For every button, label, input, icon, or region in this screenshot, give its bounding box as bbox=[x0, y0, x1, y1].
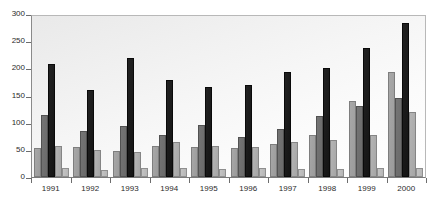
x-axis-tick-mark bbox=[189, 178, 190, 183]
bar bbox=[101, 170, 108, 177]
bar bbox=[402, 23, 409, 177]
y-axis-tick-label: 250 bbox=[12, 36, 25, 45]
y-axis: 050100150200250300 bbox=[0, 15, 31, 178]
bars-layer bbox=[32, 16, 425, 177]
bar bbox=[416, 168, 423, 177]
x-axis-labels: 1991199219931994199519961997199819992000 bbox=[31, 184, 426, 194]
x-axis-tick-mark bbox=[229, 178, 230, 183]
y-axis-tick-label: 200 bbox=[12, 63, 25, 72]
bar bbox=[191, 147, 198, 177]
bar bbox=[152, 146, 159, 177]
bar bbox=[238, 137, 245, 177]
bar bbox=[252, 147, 259, 177]
bar-group bbox=[189, 16, 228, 177]
bar bbox=[270, 144, 277, 177]
x-axis-tick-label: 1993 bbox=[110, 184, 150, 194]
bar bbox=[231, 148, 238, 177]
bar bbox=[94, 150, 101, 177]
x-axis-tick-mark bbox=[71, 178, 72, 183]
y-axis-tick-label: 150 bbox=[12, 91, 25, 100]
bar bbox=[141, 168, 148, 177]
x-axis-tick-mark bbox=[387, 178, 388, 183]
bar bbox=[62, 168, 69, 177]
bar bbox=[356, 106, 363, 177]
bar bbox=[298, 169, 305, 177]
x-axis-tick-mark bbox=[268, 178, 269, 183]
bar bbox=[120, 126, 127, 177]
bar bbox=[377, 168, 384, 177]
bar bbox=[159, 135, 166, 177]
bar bbox=[48, 64, 55, 177]
bar bbox=[409, 112, 416, 177]
x-axis-tick-mark bbox=[426, 178, 427, 183]
bar bbox=[55, 146, 62, 178]
bar bbox=[259, 168, 266, 177]
x-axis-tick-mark bbox=[308, 178, 309, 183]
x-axis-tick-label: 1999 bbox=[347, 184, 387, 194]
x-axis-tick-label: 1998 bbox=[308, 184, 348, 194]
x-axis-tick-label: 1994 bbox=[150, 184, 190, 194]
bar bbox=[41, 115, 48, 177]
x-axis-tick-label: 2000 bbox=[387, 184, 427, 194]
bar bbox=[291, 142, 298, 177]
x-axis-tick-mark bbox=[150, 178, 151, 183]
x-axis-tick-mark bbox=[110, 178, 111, 183]
x-axis-tick-label: 1991 bbox=[31, 184, 71, 194]
x-axis: 1991199219931994199519961997199819992000 bbox=[31, 178, 426, 208]
bar-group bbox=[228, 16, 267, 177]
bar bbox=[166, 80, 173, 177]
bar bbox=[284, 72, 291, 177]
bar-group bbox=[71, 16, 110, 177]
bar-group bbox=[346, 16, 385, 177]
bar bbox=[277, 129, 284, 177]
bar bbox=[34, 148, 41, 177]
y-axis-tick-label: 300 bbox=[12, 9, 25, 18]
x-axis-tick-mark bbox=[347, 178, 348, 183]
x-axis-tick-label: 1997 bbox=[268, 184, 308, 194]
bar bbox=[309, 135, 316, 177]
bar-group bbox=[150, 16, 189, 177]
bar bbox=[212, 146, 219, 177]
bar bbox=[337, 169, 344, 177]
bar bbox=[205, 87, 212, 177]
bar bbox=[363, 48, 370, 177]
bar-group bbox=[386, 16, 425, 177]
y-axis-tick-label: 0 bbox=[21, 172, 25, 181]
x-axis-ticks bbox=[31, 178, 426, 183]
bar-chart: 050100150200250300 199119921993199419951… bbox=[0, 0, 435, 210]
bar-group bbox=[307, 16, 346, 177]
bar bbox=[180, 168, 187, 177]
x-axis-tick-label: 1996 bbox=[229, 184, 269, 194]
x-axis-tick-label: 1995 bbox=[189, 184, 229, 194]
y-axis-tick-label: 50 bbox=[16, 145, 25, 154]
bar-group bbox=[268, 16, 307, 177]
bar-group bbox=[32, 16, 71, 177]
bar bbox=[127, 58, 134, 177]
plot-area bbox=[31, 15, 426, 178]
bar bbox=[370, 135, 377, 177]
x-axis-tick-mark bbox=[31, 178, 32, 183]
bar bbox=[323, 68, 330, 177]
bar bbox=[173, 142, 180, 177]
bar bbox=[134, 152, 141, 177]
bar bbox=[349, 101, 356, 177]
y-axis-tick-label: 100 bbox=[12, 118, 25, 127]
bar bbox=[330, 140, 337, 177]
bar-group bbox=[111, 16, 150, 177]
bar bbox=[388, 72, 395, 177]
bar bbox=[113, 151, 120, 177]
bar bbox=[316, 116, 323, 177]
bar bbox=[245, 85, 252, 177]
bar bbox=[87, 90, 94, 177]
bar bbox=[219, 169, 226, 177]
bar bbox=[395, 98, 402, 177]
x-axis-tick-label: 1992 bbox=[71, 184, 111, 194]
bar bbox=[80, 131, 87, 177]
bar bbox=[198, 125, 205, 177]
bar bbox=[73, 147, 80, 177]
